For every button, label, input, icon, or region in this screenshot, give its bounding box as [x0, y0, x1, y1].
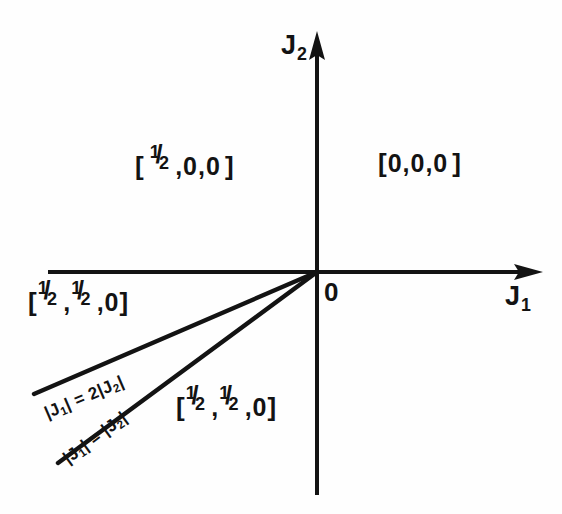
fraction-one-half-second: 1/2	[219, 391, 245, 416]
region-close-bracket: ]	[225, 151, 235, 181]
x-axis-label-text: J	[505, 281, 521, 311]
x-axis-label-subscript: 1	[521, 295, 531, 315]
region-label-top-left: [1/2,0,0]	[135, 150, 235, 179]
fraction-denominator: 2	[159, 154, 170, 172]
fraction-denominator: 2	[228, 395, 239, 413]
region-label-left-lower: [1/2,1/2,0]	[28, 286, 129, 315]
region-open-bracket: [	[378, 148, 388, 178]
fraction-denominator: 2	[80, 290, 91, 308]
region-close-bracket: ]	[119, 287, 129, 317]
y-axis-label-text: J	[281, 30, 297, 60]
region-open-bracket: [	[28, 287, 38, 317]
region-label-bottom-middle: [1/2,1/2,0]	[176, 391, 277, 420]
region-open-bracket: [	[176, 392, 186, 422]
region-close-bracket: ]	[267, 392, 277, 422]
fraction-one-half: 1/2	[38, 286, 64, 311]
region-tail-text: ,0	[97, 288, 120, 316]
region-separator: ,	[63, 288, 71, 316]
region-label-top-right: [0,0,0]	[378, 150, 462, 176]
fraction-denominator: 2	[195, 395, 206, 413]
region-body-text: 0,0,0	[388, 149, 449, 177]
region-tail-text: ,0	[245, 393, 268, 421]
y-axis-label: J2	[281, 32, 307, 59]
region-close-bracket: ]	[452, 148, 462, 178]
origin-label: 0	[324, 279, 339, 305]
fraction-one-half-second: 1/2	[71, 286, 97, 311]
figure-canvas: J2 J1 0 [1/2,0,0] [0,0,0] [1/2,1/2,0] [1…	[0, 0, 562, 514]
x-axis-label: J1	[505, 283, 531, 310]
region-open-bracket: [	[135, 151, 145, 181]
fraction-one-half: 1/2	[150, 150, 176, 175]
fraction-denominator: 2	[47, 290, 58, 308]
fraction-one-half: 1/2	[186, 391, 212, 416]
region-separator: ,	[211, 393, 219, 421]
region-tail-text: ,0,0	[175, 152, 221, 180]
y-axis-label-subscript: 2	[297, 44, 307, 64]
